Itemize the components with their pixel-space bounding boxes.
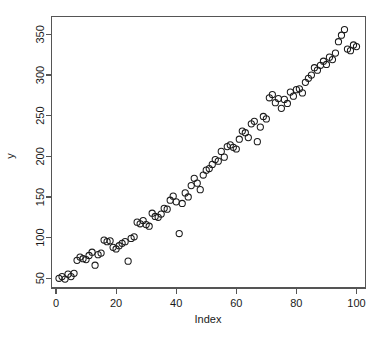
data-point bbox=[257, 124, 263, 130]
y-tick-label: 100 bbox=[35, 228, 47, 246]
y-tick-label: 250 bbox=[35, 106, 47, 124]
y-tick-label: 300 bbox=[35, 66, 47, 84]
x-tick-label: 100 bbox=[347, 297, 365, 309]
data-point bbox=[125, 258, 131, 264]
x-tick-label: 20 bbox=[110, 297, 122, 309]
data-point bbox=[236, 136, 242, 142]
x-tick-label: 40 bbox=[170, 297, 182, 309]
data-point bbox=[332, 50, 338, 56]
x-tick-label: 80 bbox=[290, 297, 302, 309]
data-point bbox=[188, 182, 194, 188]
scatter-plot-figure: 020406080100 50100150200250300350 Index … bbox=[0, 0, 388, 342]
data-point bbox=[278, 105, 284, 111]
data-point bbox=[194, 180, 200, 186]
data-point bbox=[92, 262, 98, 268]
y-tick-label: 350 bbox=[35, 25, 47, 43]
y-axis-ticks: 50100150200250300350 bbox=[35, 25, 52, 284]
data-point bbox=[341, 26, 347, 32]
data-point bbox=[245, 135, 251, 141]
data-point bbox=[335, 39, 341, 45]
x-axis-title: Index bbox=[195, 313, 222, 325]
data-point bbox=[173, 199, 179, 205]
x-axis-ticks: 020406080100 bbox=[53, 288, 366, 309]
data-points bbox=[56, 26, 360, 282]
y-tick-label: 50 bbox=[35, 272, 47, 284]
plot-frame bbox=[52, 17, 366, 289]
data-point bbox=[221, 154, 227, 160]
data-point bbox=[176, 230, 182, 236]
data-point bbox=[197, 187, 203, 193]
plot-canvas: 020406080100 50100150200250300350 Index … bbox=[0, 0, 388, 342]
y-tick-label: 200 bbox=[35, 147, 47, 165]
x-tick-label: 0 bbox=[53, 297, 59, 309]
x-tick-label: 60 bbox=[230, 297, 242, 309]
y-axis-title: y bbox=[4, 153, 16, 159]
data-point bbox=[254, 139, 260, 145]
data-point bbox=[179, 200, 185, 206]
y-tick-label: 150 bbox=[35, 188, 47, 206]
